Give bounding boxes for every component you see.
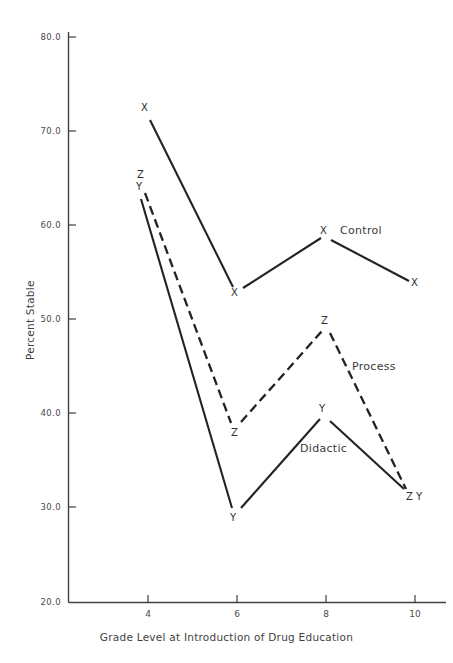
x-tick-label-4: 4	[136, 609, 160, 619]
series-line-didactic	[141, 199, 404, 508]
x-axis-ticks	[148, 595, 415, 603]
x-tick-label-8: 8	[314, 609, 338, 619]
series-line-process	[145, 193, 406, 489]
x-tick-label-10: 10	[403, 609, 427, 619]
axis-lines	[69, 32, 447, 603]
point-label-process-didactic-grade10: Z Y	[406, 492, 422, 502]
y-tick-label-40: 40.0	[27, 408, 61, 418]
point-label-control-grade10: X	[411, 278, 418, 288]
point-label-process-grade6: Z	[231, 428, 238, 438]
chart-plot-area	[0, 0, 453, 663]
y-tick-label-80: 80.0	[27, 32, 61, 42]
y-tick-label-70: 70.0	[27, 126, 61, 136]
series-annotation-control: Control	[340, 225, 382, 236]
x-axis-title: Grade Level at Introduction of Drug Educ…	[0, 631, 453, 643]
series-annotation-process: Process	[352, 361, 396, 372]
point-label-didactic-grade8: Y	[319, 404, 325, 414]
point-label-process-grade8: Z	[321, 316, 328, 326]
series-line-control	[150, 120, 409, 288]
y-axis-ticks	[69, 37, 77, 507]
point-label-control-grade8: X	[320, 226, 327, 236]
point-label-didactic-grade6: Y	[230, 513, 236, 523]
y-axis-title: Percent Stable	[24, 280, 36, 360]
series-annotation-didactic: Didactic	[300, 443, 347, 454]
y-tick-label-30: 30.0	[27, 502, 61, 512]
chart-figure: 80.0 70.0 60.0 50.0 40.0 30.0 20.0 4 6 8…	[0, 0, 453, 663]
point-label-process-grade4: Z	[137, 170, 144, 180]
y-tick-label-20: 20.0	[27, 597, 61, 607]
x-tick-label-6: 6	[225, 609, 249, 619]
y-tick-label-60: 60.0	[27, 220, 61, 230]
point-label-control-grade4: X	[141, 103, 148, 113]
point-label-didactic-grade4: Y	[136, 182, 142, 192]
point-label-control-grade6: X	[231, 288, 238, 298]
